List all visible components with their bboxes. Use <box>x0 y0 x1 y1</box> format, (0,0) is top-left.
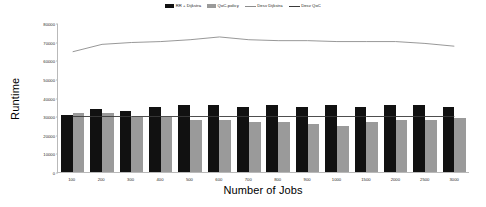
legend-item: RR + Dijkstra <box>165 3 201 9</box>
y-axis-tick-mark <box>56 135 59 136</box>
y-axis-tick-label: 60000 <box>43 59 55 64</box>
legend-item: Desv Dijkstra <box>245 3 283 9</box>
legend-label: Desv Dijkstra <box>257 3 282 9</box>
line-desv-dijkstra <box>73 37 455 52</box>
y-axis-tick-mark <box>56 117 59 118</box>
legend-item: Desv QoC <box>289 3 321 9</box>
y-axis-tick-mark <box>56 24 59 25</box>
y-axis-tick-label: 20000 <box>43 133 55 138</box>
runtime-bar-chart: RR + DijkstraQoC-policyDesv DijkstraDesv… <box>0 0 486 207</box>
y-axis-tick-label: 30000 <box>43 115 55 120</box>
chart-legend: RR + DijkstraQoC-policyDesv DijkstraDesv… <box>0 3 486 9</box>
y-axis-tick-mark <box>56 98 59 99</box>
legend-line-swatch-icon <box>289 6 300 7</box>
y-axis-tick-label: 10000 <box>43 152 55 157</box>
legend-bar-swatch-icon <box>165 4 174 8</box>
y-axis-title: Runtime <box>8 24 22 173</box>
legend-label: Desv QoC <box>301 3 321 9</box>
plot-frame: 0100002000030000400005000060000700008000… <box>57 24 469 173</box>
y-axis-tick-label: 80000 <box>43 22 55 27</box>
y-axis-tick-mark <box>56 79 59 80</box>
x-axis-title: Number of Jobs <box>57 184 469 196</box>
y-axis-tick-label: 40000 <box>43 96 55 101</box>
y-axis-tick-mark <box>56 42 59 43</box>
legend-bar-swatch-icon <box>207 4 216 8</box>
legend-label: QoC-policy <box>218 3 239 9</box>
legend-label: RR + Dijkstra <box>176 3 201 9</box>
legend-item: QoC-policy <box>207 3 239 9</box>
y-axis-tick-label: 70000 <box>43 40 55 45</box>
plot-area <box>58 24 469 172</box>
y-axis-tick-mark <box>56 154 59 155</box>
line-series-container <box>58 24 469 172</box>
y-axis-tick-mark <box>56 61 59 62</box>
y-axis-tick-label: 50000 <box>43 77 55 82</box>
legend-line-swatch-icon <box>245 6 256 7</box>
